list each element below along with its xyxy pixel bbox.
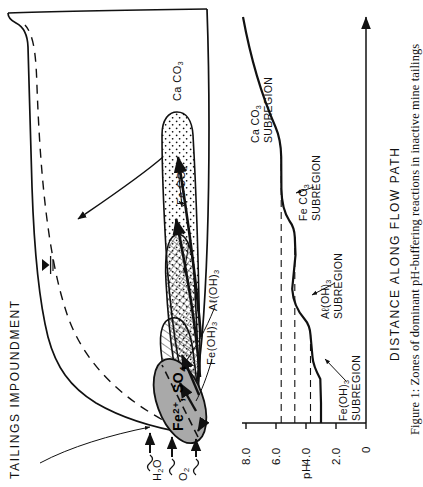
ph-profile-chart <box>228 0 404 487</box>
ytick-6: 6.0 <box>270 447 282 465</box>
subregion-label-al-hydroxide: Aℓ(OH)3SUBREGION <box>320 253 345 319</box>
label-al-hydroxide: Aℓ(OH)3 <box>208 269 221 311</box>
y-axis-label: pH <box>300 463 312 479</box>
subregion-label-fe-carbonate: Fe CO3SUBREGION <box>298 155 323 221</box>
figure-rotated-content: TAILINGS IMPOUNDMENT <box>0 0 423 487</box>
label-ca-carbonate: Ca CO3 <box>172 61 185 101</box>
label-core-chemistry: Fe2+, SO4 <box>170 366 188 431</box>
label-o2: O2 <box>178 467 191 481</box>
ytick-8: 8.0 <box>240 447 252 465</box>
subregion-label-fe-hydroxide: Fe(OH)3SUBREGION <box>338 355 363 421</box>
x-axis-label: DISTANCE ALONG FLOW PATH <box>388 147 402 361</box>
label-h2o: H2O <box>152 459 165 481</box>
ytick-0: 0 <box>360 446 372 453</box>
figure-canvas: TAILINGS IMPOUNDMENT <box>0 0 423 487</box>
figure-caption: Figure 1: Zones of dominant pH-buffering… <box>408 44 423 435</box>
subregion-label-ca-carbonate: Ca CO3SUBREGION <box>250 77 275 143</box>
label-fe-hydroxide: Fe(OH)3 <box>206 321 219 365</box>
label-fe-carbonate: Fe CO3 <box>176 166 189 205</box>
water-table-symbol <box>42 256 53 274</box>
ytick-2: 2.0 <box>330 447 342 465</box>
